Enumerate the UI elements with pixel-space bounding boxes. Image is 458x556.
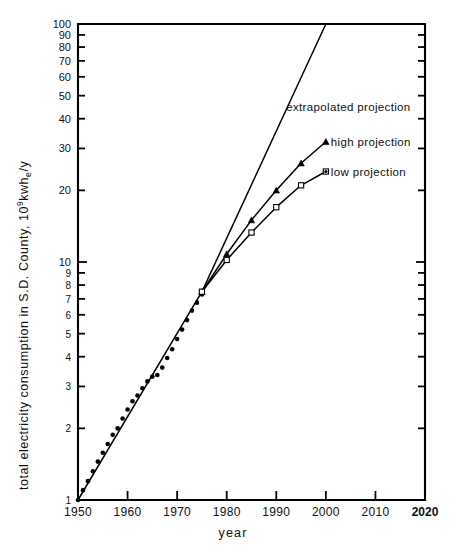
leader-dot-low	[324, 170, 327, 173]
x-tick-label-2000: 2000	[312, 505, 340, 519]
y-tick-label-90: 90	[59, 29, 71, 41]
y-tick-label-20: 20	[59, 184, 71, 196]
y-axis-title: total electricity consumption in S.D. Co…	[15, 161, 33, 490]
y-axis-title-lead: total electricity consumption in S.D. Co…	[17, 206, 31, 490]
y-tick-label-9: 9	[65, 268, 71, 279]
y-axis-title-text: total electricity consumption in S.D. Co…	[15, 161, 33, 490]
data-point-0-9	[120, 416, 125, 421]
y-tick-label-10: 10	[59, 256, 71, 268]
data-point-4-0	[199, 289, 204, 294]
y-tick-label-8: 8	[65, 280, 71, 291]
y-tick-label-40: 40	[59, 113, 71, 125]
x-tick-label-2010: 2010	[361, 505, 389, 519]
x-tick-label-1950: 1950	[64, 505, 92, 519]
data-point-0-10	[125, 407, 130, 412]
y-axis-title-tail: /y	[17, 161, 31, 172]
y-tick-label-70: 70	[59, 55, 71, 67]
y-tick-label-30: 30	[59, 142, 71, 154]
x-tick-label-1980: 1980	[213, 505, 241, 519]
annotation-extrapolated-projection: extrapolated projection	[286, 101, 410, 113]
y-tick-label-80: 80	[59, 41, 71, 53]
y-tick-label-100: 100	[53, 18, 71, 30]
data-point-4-2	[249, 230, 254, 235]
y-tick-label-60: 60	[59, 71, 71, 83]
data-point-0-16	[155, 373, 160, 378]
data-point-0-7	[110, 432, 115, 437]
data-point-4-4	[298, 183, 303, 188]
y-tick-label-7: 7	[65, 294, 71, 305]
y-tick-label-6: 6	[65, 310, 71, 321]
chart-root: 123456789102030405060708090100 195019601…	[0, 0, 458, 556]
x-axis-title: year	[218, 526, 247, 540]
y-tick-label-5: 5	[65, 329, 71, 340]
x-tick-label-1960: 1960	[114, 505, 142, 519]
x-tick-label-2020: 2020	[412, 505, 439, 519]
line-chart: 123456789102030405060708090100 195019601…	[0, 0, 458, 556]
y-tick-label-4: 4	[65, 352, 71, 363]
annotation-high-projection: high projection	[331, 136, 411, 148]
annotation-low-projection: low projection	[331, 166, 406, 178]
data-point-0-17	[160, 365, 165, 370]
data-point-0-18	[165, 356, 170, 361]
y-axis-title-mid: kwh	[17, 177, 31, 201]
data-point-4-3	[274, 205, 279, 210]
x-tick-label-1990: 1990	[262, 505, 290, 519]
leader-dot-high	[324, 140, 327, 143]
y-tick-label-3: 3	[65, 381, 71, 392]
data-point-0-19	[170, 347, 175, 352]
y-tick-label-2: 2	[65, 423, 71, 434]
y-tick-label-50: 50	[59, 90, 71, 102]
data-point-0-6	[105, 442, 110, 447]
data-point-4-1	[224, 257, 229, 262]
data-point-0-11	[130, 399, 135, 404]
x-tick-label-1970: 1970	[163, 505, 191, 519]
